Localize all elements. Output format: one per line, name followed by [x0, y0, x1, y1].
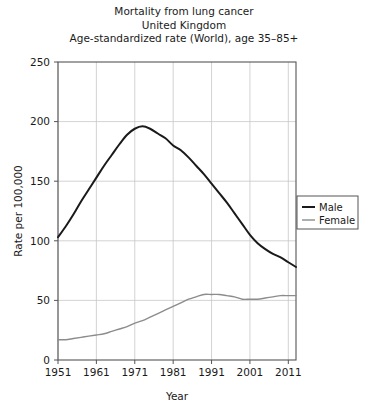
- legend-label-male[interactable]: Male: [319, 202, 343, 213]
- x-tick-label: 1991: [198, 366, 225, 378]
- y-tick-label: 0: [43, 354, 50, 366]
- chart-canvas: 1951196119711981199120012011 05010015020…: [0, 0, 368, 408]
- series-line-male: [58, 126, 296, 267]
- x-tick-label: 1981: [160, 366, 187, 378]
- x-tick-label: 2001: [237, 366, 264, 378]
- y-tick-label: 200: [30, 115, 50, 127]
- y-tick-label: 50: [37, 294, 50, 306]
- x-axis-title: Year: [165, 390, 189, 402]
- grid-lines: [58, 62, 296, 360]
- y-axis-title: Rate per 100,000: [12, 165, 24, 257]
- legend[interactable]: MaleFemale: [297, 196, 358, 229]
- plot-frame: [58, 62, 296, 360]
- x-axis-ticks: [58, 360, 288, 364]
- x-tick-label: 2011: [275, 366, 302, 378]
- chart-figure: Mortality from lung cancer United Kingdo…: [0, 0, 368, 408]
- y-axis-ticks: [54, 62, 58, 360]
- x-tick-labels: 1951196119711981199120012011: [45, 366, 302, 378]
- y-tick-label: 150: [30, 175, 50, 187]
- y-tick-labels: 050100150200250: [30, 56, 50, 366]
- x-tick-label: 1951: [45, 366, 72, 378]
- x-tick-label: 1961: [83, 366, 110, 378]
- y-tick-label: 100: [30, 235, 50, 247]
- series-line-female: [58, 294, 296, 340]
- x-tick-label: 1971: [121, 366, 148, 378]
- y-tick-label: 250: [30, 56, 50, 68]
- legend-label-female[interactable]: Female: [319, 215, 355, 226]
- series-lines: [58, 126, 296, 339]
